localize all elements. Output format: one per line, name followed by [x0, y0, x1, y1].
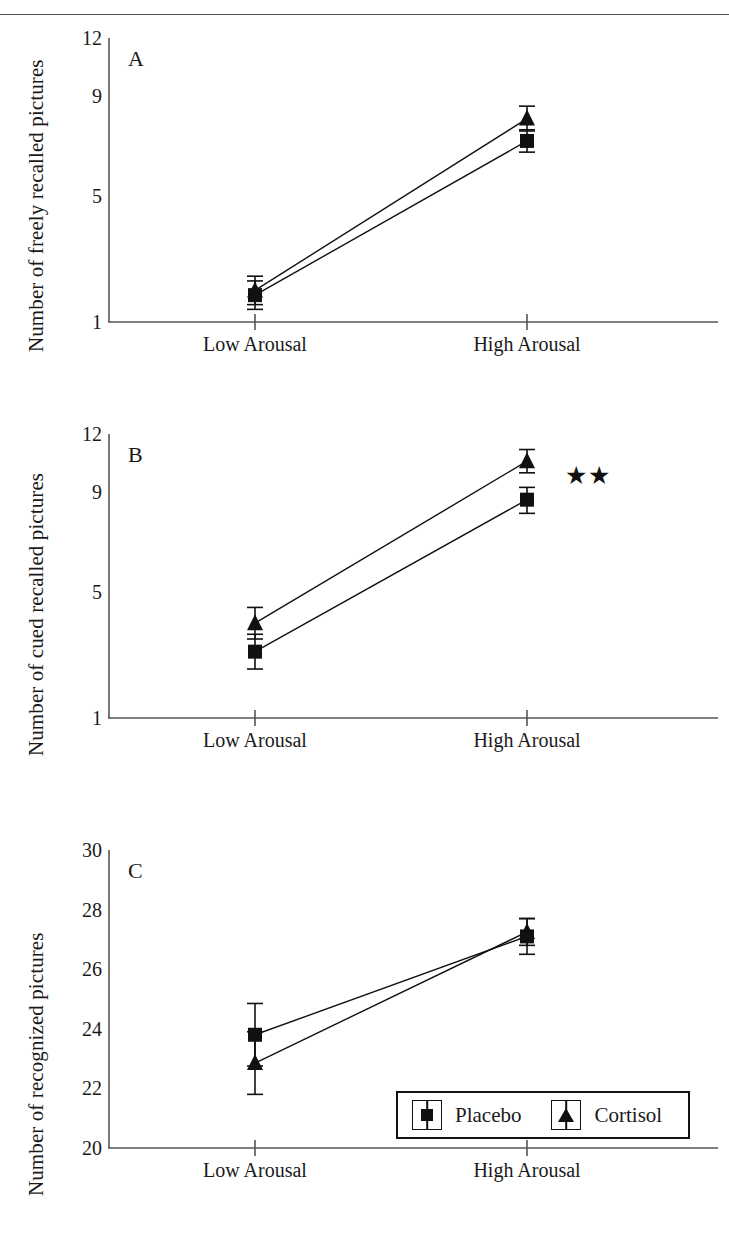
significance-stars: ★★ [565, 463, 611, 488]
panel-letter-b: B [128, 442, 143, 468]
panel-a-plot-area [108, 22, 728, 352]
panel-letter-a: A [128, 46, 144, 72]
y-tick-label: 28 [56, 900, 102, 920]
y-tick-label: 9 [56, 86, 102, 106]
x-tick-label: High Arousal [447, 334, 607, 354]
y-tick-label: 20 [56, 1138, 102, 1158]
header-divider [0, 14, 729, 15]
y-tick-label: 24 [56, 1019, 102, 1039]
panel-a-y-axis-label: Number of freely recalled pictures [24, 59, 49, 352]
y-tick-label: 5 [56, 582, 102, 602]
y-tick-label: 12 [56, 28, 102, 48]
panel-b-y-axis-label: Number of cued recalled pictures [24, 473, 49, 756]
legend-entry-cortisol: Cortisol [551, 1100, 662, 1130]
y-tick-label: 22 [56, 1078, 102, 1098]
y-tick-label: 30 [56, 840, 102, 860]
figure-page: Number of freely recalled pictures 12951… [0, 0, 729, 1253]
x-tick-label: Low Arousal [175, 1160, 335, 1180]
x-tick-label: High Arousal [447, 1160, 607, 1180]
y-tick-label: 26 [56, 959, 102, 979]
square-marker-icon [412, 1100, 442, 1130]
legend-label-placebo: Placebo [455, 1103, 521, 1128]
panel-c-y-axis-label: Number of recognized pictures [24, 932, 49, 1196]
y-tick-label: 5 [56, 186, 102, 206]
panel-letter-c: C [128, 858, 143, 884]
y-tick-label: 9 [56, 482, 102, 502]
y-tick-label: 1 [56, 312, 102, 332]
x-tick-label: Low Arousal [175, 334, 335, 354]
legend-entry-placebo: Placebo [412, 1100, 551, 1130]
legend-label-cortisol: Cortisol [594, 1103, 662, 1128]
panel-a: Number of freely recalled pictures 12951… [0, 22, 729, 392]
triangle-marker-icon [551, 1100, 581, 1130]
panel-b-plot-area [108, 418, 728, 748]
header-ghost-text [170, 0, 590, 6]
legend: Placebo Cortisol [396, 1091, 690, 1139]
panel-b: Number of cued recalled pictures 12951BL… [0, 418, 729, 790]
y-tick-label: 1 [56, 708, 102, 728]
panel-c: Number of recognized pictures Placebo Co… [0, 836, 729, 1253]
x-tick-label: High Arousal [447, 730, 607, 750]
x-tick-label: Low Arousal [175, 730, 335, 750]
y-tick-label: 12 [56, 424, 102, 444]
